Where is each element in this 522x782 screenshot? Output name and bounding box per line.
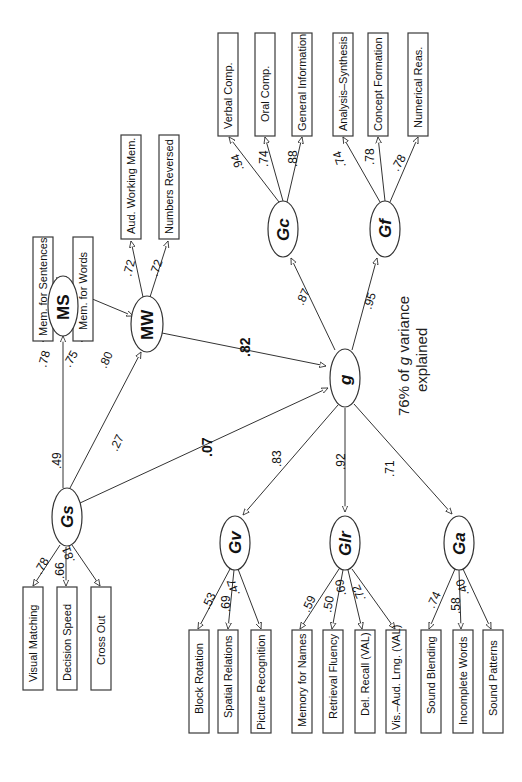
svg-text:Oral Comp.: Oral Comp. [259, 66, 271, 122]
indicator-cross-out: Cross Out [91, 587, 111, 690]
note-line2: explained [413, 328, 430, 392]
indicator-spatial-relations: Spatial Relations [218, 630, 238, 733]
indicator-numbers-reversed: Numbers Reversed [159, 135, 179, 239]
coef-ga-ind1: .74 [424, 589, 444, 610]
svg-text:Numbers Reversed: Numbers Reversed [163, 139, 175, 234]
edge-g-gv [243, 405, 338, 515]
factor-gf: Gf [370, 201, 400, 257]
variance-note: 76% of g variance explained [395, 296, 430, 416]
svg-text:Sound Blending: Sound Blending [425, 636, 437, 714]
edge-gc-ind2 [265, 137, 283, 201]
svg-text:Decision Speed: Decision Speed [61, 604, 73, 681]
svg-text:MS: MS [54, 295, 73, 321]
coef-ms-ind1: .78 [35, 349, 53, 369]
edge-gf-ind1 [343, 137, 380, 202]
svg-text:Visual Matching: Visual Matching [27, 605, 39, 682]
indicator-memory-for-names: Memory for Names [292, 630, 312, 733]
coef-gs-ind3: .81 [59, 544, 78, 565]
svg-text:Mem. for Words: Mem. for Words [77, 251, 89, 330]
indicator-sound-blending: Sound Blending [421, 630, 441, 733]
edge-gf-ind2 [378, 137, 385, 201]
svg-text:Memory for Names: Memory for Names [296, 633, 308, 727]
sem-diagram: Verbal Comp. Oral Comp. General Informat… [0, 0, 522, 782]
svg-text:Cross Out: Cross Out [95, 615, 107, 665]
coef-gv-ind3: .47 [224, 577, 243, 598]
coef-gv-ind1: .53 [199, 590, 219, 611]
coef-glr-ind3: .69 [332, 578, 349, 597]
factor-g: g [330, 349, 360, 407]
factor-ms: MS [48, 276, 78, 336]
svg-text:Gv: Gv [226, 530, 245, 554]
svg-text:Spatial Relations: Spatial Relations [222, 635, 234, 718]
svg-text:Vis.–Aud. Lrng. (VAL): Vis.–Aud. Lrng. (VAL) [390, 625, 402, 730]
coef-g-gf: .95 [361, 290, 380, 311]
svg-text:Glr: Glr [336, 530, 355, 556]
edge-gc-ind3 [287, 137, 302, 202]
svg-text:General Information: General Information [296, 34, 308, 131]
factor-glr: Glr [330, 516, 360, 570]
coef-g-glr: .92 [334, 453, 348, 470]
coef-gs-g: .07 [199, 437, 215, 457]
factor-gc: Gc [268, 201, 298, 257]
svg-text:Sound Patterns: Sound Patterns [487, 640, 499, 716]
factor-mw: MW [131, 296, 163, 352]
svg-text:Block Rotation: Block Rotation [193, 643, 205, 714]
svg-text:Numerical Reas.: Numerical Reas. [412, 47, 424, 128]
coef-ms-ind2: .75 [60, 348, 81, 370]
note-prefix: 76% of [395, 365, 412, 416]
coef-gf-ind1: .74 [330, 149, 349, 170]
coef-gc-ind1: .94 [228, 152, 247, 173]
indicator-picture-recognition: Picture Recognition [251, 630, 271, 733]
coef-gs-ms: .49 [50, 452, 64, 469]
indicator-del-recall-val: Del. Recall (VAL) [355, 630, 375, 733]
svg-text:76% of g variance: 76% of g variance [395, 296, 412, 416]
svg-text:Gc: Gc [274, 218, 293, 241]
coef-gc-ind2: .74 [257, 150, 271, 167]
svg-text:Gs: Gs [58, 505, 77, 528]
svg-text:Del. Recall (VAL): Del. Recall (VAL) [359, 632, 371, 716]
coef-gc-ind3: .88 [286, 150, 300, 167]
coef-gf-ind2: .78 [363, 148, 377, 165]
coef-glr-ind1: .59 [299, 593, 319, 614]
coef-g-gv: .83 [270, 450, 284, 467]
coef-gs-ind1: .78 [31, 555, 52, 577]
coef-ga-ind2: .58 [449, 597, 463, 614]
indicator-oral-comp: Oral Comp. [255, 33, 275, 136]
indicator-numerical-reas: Numerical Reas. [408, 33, 428, 136]
svg-text:g: g [336, 374, 355, 386]
indicator-analysis-synthesis: Analysis–Synthesis [333, 33, 353, 136]
edge-gv-ind3 [238, 569, 261, 629]
svg-text:Picture Recognition: Picture Recognition [255, 635, 267, 730]
indicator-concept-formation: Concept Formation [368, 33, 388, 136]
indicator-vis-aud-lrng-val: Vis.–Aud. Lrng. (VAL) [386, 625, 406, 733]
coef-gs-mw: .27 [107, 432, 127, 453]
factor-ga: Ga [444, 516, 474, 570]
svg-text:Verbal Comp.: Verbal Comp. [222, 62, 234, 129]
indicator-aud-working-mem: Aud. Working Mem. [121, 135, 141, 239]
indicator-decision-speed: Decision Speed [57, 587, 77, 690]
indicator-retrieval-fluency: Retrieval Fluency [323, 630, 343, 733]
note-suffix: variance [395, 296, 412, 357]
coef-ga-ind3: .40 [453, 577, 472, 598]
svg-text:Ga: Ga [450, 532, 469, 555]
coef-g-ga: .71 [383, 460, 397, 477]
edge-g-ga [354, 404, 452, 514]
svg-text:Gf: Gf [376, 217, 395, 238]
factor-gv: Gv [220, 516, 250, 570]
indicator-visual-matching: Visual Matching [23, 587, 43, 690]
svg-text:MW: MW [138, 309, 157, 340]
svg-text:Mem. for Sentences: Mem. for Sentences [37, 237, 49, 336]
indicator-block-rotation: Block Rotation [189, 630, 209, 733]
coef-g-gc: .87 [293, 286, 313, 307]
edge-gs-ind3 [72, 545, 100, 586]
coef-mw-ind2: .72 [147, 257, 166, 278]
indicator-verbal-comp: Verbal Comp. [218, 33, 238, 136]
edge-ga-ind3 [463, 569, 491, 629]
coef-mw-g: .82 [237, 337, 253, 357]
coef-ms-mw: .80 [96, 349, 116, 370]
factor-gs: Gs [52, 488, 82, 546]
svg-text:Analysis–Synthesis: Analysis–Synthesis [337, 36, 349, 131]
svg-text:Retrieval Fluency: Retrieval Fluency [327, 634, 339, 719]
svg-text:Concept Formation: Concept Formation [372, 37, 384, 131]
coef-gf-ind3: .78 [388, 152, 409, 174]
